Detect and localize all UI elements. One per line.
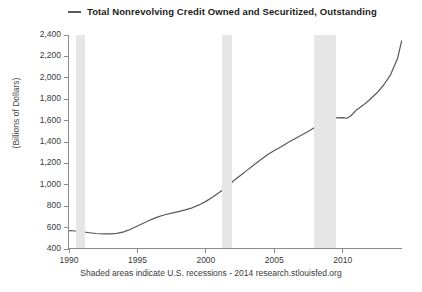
chart-legend: Total Nonrevolving Credit Owned and Secu… bbox=[68, 6, 377, 17]
y-tick-mark bbox=[64, 35, 69, 36]
y-tick-label: 1,600 bbox=[40, 115, 61, 125]
y-axis-label: (Billions of Dollars) bbox=[11, 53, 21, 173]
x-tick-mark bbox=[274, 248, 275, 253]
chart-container: Total Nonrevolving Credit Owned and Secu… bbox=[0, 0, 422, 292]
y-tick-label: 1,000 bbox=[40, 179, 61, 189]
x-tick-label: 2010 bbox=[333, 255, 352, 265]
y-tick-mark bbox=[64, 99, 69, 100]
x-tick-label: 1995 bbox=[128, 255, 147, 265]
y-tick-mark bbox=[64, 77, 69, 78]
y-tick-mark bbox=[64, 56, 69, 57]
recession-band bbox=[76, 35, 86, 248]
y-tick-label: 2,400 bbox=[40, 29, 61, 39]
plot-area: 4006008001,0001,2001,4001,6001,8002,0002… bbox=[68, 35, 402, 249]
recession-band bbox=[222, 35, 232, 248]
chart-title: Total Nonrevolving Credit Owned and Secu… bbox=[87, 6, 377, 17]
y-tick-mark bbox=[64, 120, 69, 121]
x-tick-label: 2005 bbox=[265, 255, 284, 265]
y-tick-mark bbox=[64, 184, 69, 185]
x-tick-label: 2000 bbox=[196, 255, 215, 265]
y-tick-label: 2,000 bbox=[40, 72, 61, 82]
x-tick-label: 1990 bbox=[60, 255, 79, 265]
chart-footnote: Shaded areas indicate U.S. recessions - … bbox=[0, 268, 422, 278]
y-tick-label: 1,200 bbox=[40, 157, 61, 167]
y-tick-label: 600 bbox=[47, 222, 61, 232]
plot-inner bbox=[69, 35, 402, 248]
x-tick-mark bbox=[137, 248, 138, 253]
y-tick-label: 400 bbox=[47, 243, 61, 253]
y-tick-label: 2,200 bbox=[40, 50, 61, 60]
x-tick-mark bbox=[69, 248, 70, 253]
legend-line-marker-icon bbox=[68, 11, 81, 13]
series-line bbox=[69, 35, 402, 248]
y-tick-label: 800 bbox=[47, 200, 61, 210]
y-tick-mark bbox=[64, 227, 69, 228]
y-tick-mark bbox=[64, 163, 69, 164]
y-tick-label: 1,800 bbox=[40, 93, 61, 103]
recession-band bbox=[314, 35, 336, 248]
x-tick-mark bbox=[205, 248, 206, 253]
y-tick-mark bbox=[64, 142, 69, 143]
y-tick-label: 1,400 bbox=[40, 136, 61, 146]
y-tick-mark bbox=[64, 206, 69, 207]
data-line bbox=[69, 41, 402, 234]
x-tick-mark bbox=[342, 248, 343, 253]
